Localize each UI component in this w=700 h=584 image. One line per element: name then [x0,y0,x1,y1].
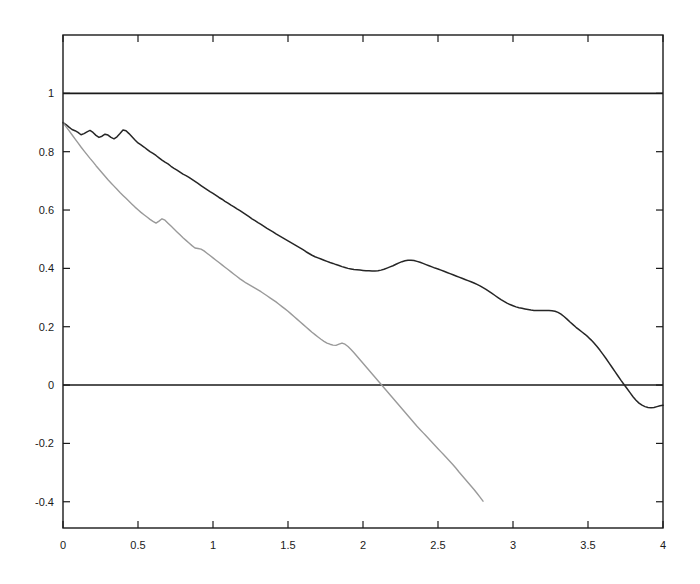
x-tick-label: 0 [60,539,66,551]
y-tick-label: 0 [48,379,54,391]
x-tick-label: 4 [660,539,666,551]
y-tick-label: 0.6 [39,204,54,216]
plot-area: 00.511.522.533.54 10.80.60.40.20-0.2-0.4 [35,35,666,551]
x-tick-label: 3.5 [580,539,595,551]
y-tick-label: 0.4 [39,262,54,274]
y-tick-label: 1 [48,87,54,99]
x-tick-label: 2.5 [430,539,445,551]
plot-background [63,35,663,528]
x-tick-label: 1.5 [280,539,295,551]
x-tick-label: 1 [210,539,216,551]
line-chart-figure: 00.511.522.533.54 10.80.60.40.20-0.2-0.4 [0,0,700,584]
y-tick-label: 0.8 [39,146,54,158]
y-tick-label: 0.2 [39,321,54,333]
x-tick-label: 3 [510,539,516,551]
y-tick-label: -0.4 [35,496,54,508]
x-tick-label: 0.5 [130,539,145,551]
x-tick-label: 2 [360,539,366,551]
y-tick-label: -0.2 [35,437,54,449]
